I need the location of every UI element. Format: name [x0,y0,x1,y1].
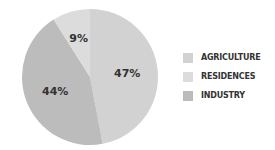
legend-label: AGRICULTURE [201,53,260,62]
legend-label: RESIDENCES [201,72,255,81]
legend-label: INDUSTRY [201,91,245,100]
legend-item-industry: INDUSTRY [183,86,260,105]
legend-swatch [183,91,193,101]
legend-item-agriculture: AGRICULTURE [183,48,260,67]
legend-swatch [183,53,193,63]
slice-label-industry: 44% [42,85,68,98]
legend-item-residences: RESIDENCES [183,67,260,86]
slice-label-residences: 9% [69,32,88,45]
legend: AGRICULTURE RESIDENCES INDUSTRY [183,48,260,105]
slice-label-agriculture: 47% [114,67,140,80]
legend-swatch [183,72,193,82]
pie-chart: 47%44%9% [0,0,180,150]
